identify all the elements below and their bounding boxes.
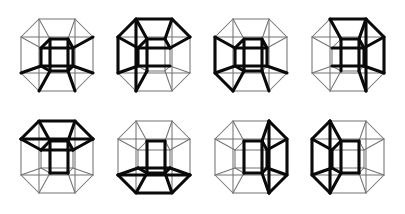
thin-edges-6 (118, 121, 190, 193)
tesseract-projection-6 (108, 109, 200, 205)
tesseract-panel-6[interactable] (105, 106, 202, 208)
tesseract-projection-5 (11, 109, 103, 205)
tesseract-projection-3 (205, 7, 297, 103)
thin-edges-7 (215, 121, 287, 193)
tesseract-panel-7[interactable] (203, 106, 300, 208)
tesseract-panel-8[interactable] (300, 106, 397, 208)
tesseract-projection-4 (302, 7, 394, 103)
thin-edges-4 (312, 19, 384, 91)
tesseract-panel-5[interactable] (8, 106, 105, 208)
tesseract-projection-1 (11, 7, 103, 103)
thin-edges-8 (312, 121, 384, 193)
tesseract-panel-2[interactable] (105, 4, 202, 106)
highlighted-cell-8 (312, 121, 359, 193)
thin-edges-1 (21, 19, 93, 91)
panel-grid (0, 0, 405, 214)
highlighted-cell-1 (21, 37, 93, 91)
highlighted-cell-5 (21, 121, 93, 173)
highlighted-cell-3 (215, 37, 287, 91)
highlighted-cell-7 (244, 121, 287, 193)
thin-edges-2 (118, 19, 190, 91)
thin-edges-5 (21, 121, 93, 193)
tesseract-cells-figure (0, 0, 405, 214)
highlighted-cell-6 (118, 141, 190, 193)
thin-edges-3 (215, 19, 287, 91)
tesseract-projection-8 (302, 109, 394, 205)
tesseract-panel-3[interactable] (203, 4, 300, 106)
tesseract-panel-4[interactable] (300, 4, 397, 106)
tesseract-projection-2 (108, 7, 200, 103)
highlighted-cell-4 (330, 19, 384, 91)
tesseract-projection-7 (205, 109, 297, 205)
tesseract-panel-1[interactable] (8, 4, 105, 106)
highlighted-cell-2 (118, 19, 190, 91)
